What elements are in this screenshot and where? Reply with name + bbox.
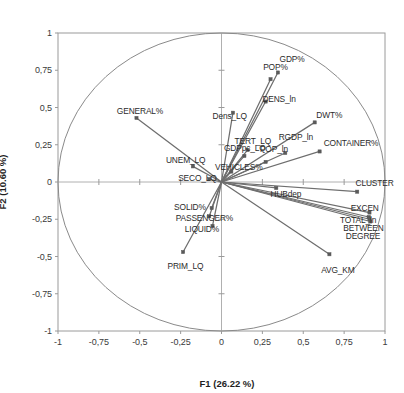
variable-marker [318, 150, 321, 153]
x-tick-label: -0,5 [132, 337, 147, 347]
variable-label-dens-ln: DENS_ln [262, 95, 295, 103]
x-tick-label: 0,25 [254, 337, 271, 347]
y-tick-label: 1 [6, 28, 52, 38]
variable-marker [135, 116, 138, 119]
variable-marker [264, 160, 267, 163]
variable-label-avg-km: AVG_KM [321, 266, 354, 274]
variable-marker [210, 206, 213, 209]
variable-label-dens-lq: Dens_LQ [213, 112, 247, 120]
variable-marker [243, 154, 246, 157]
x-axis-title: F1 (26.22 %) [0, 378, 404, 389]
x-tick-label: -0,75 [89, 337, 109, 347]
variable-label-general: GENERAL% [117, 107, 163, 115]
x-tick-label: 0,5 [297, 337, 309, 347]
variable-marker [191, 165, 194, 168]
variable-label-degree: DEGREE [346, 232, 380, 240]
variable-label-passenger: PASSENGER% [176, 214, 233, 222]
y-tick-label: 0,75 [6, 65, 52, 75]
variable-label-container: CONTAINER% [324, 139, 379, 147]
variable-label-prim-lq: PRIM_LQ [168, 262, 204, 270]
variable-label-vehicles: VEHICLES% [215, 163, 263, 171]
x-tick-label: -1 [54, 337, 62, 347]
variable-label-unem-lq: UNEM_LQ [166, 156, 205, 164]
variable-label-pop: POP% [263, 63, 288, 71]
y-tick-label: -0,25 [6, 214, 52, 224]
variable-label-excen: EXCEN [351, 204, 379, 212]
variable-marker [313, 121, 316, 124]
variable-marker [269, 78, 272, 81]
x-tick-label: 1 [383, 337, 388, 347]
variable-label-seco-lq: SECO_LQ [178, 174, 217, 182]
y-tick-label: 0 [6, 177, 52, 187]
x-tick-label: 0,75 [336, 337, 353, 347]
variable-marker [356, 190, 359, 193]
y-tick-label: 0,5 [6, 103, 52, 113]
y-tick-label: 0,25 [6, 140, 52, 150]
y-tick-label: -1 [6, 326, 52, 336]
x-tick-label: 0 [219, 337, 224, 347]
variable-label-dwt: DWT% [316, 111, 342, 119]
y-axis-title: F2 (10.60 %) [0, 122, 8, 242]
variable-label-pop-ln: POP_ln [260, 145, 288, 153]
variable-label-solid: SOLID% [174, 203, 206, 211]
variable-marker [181, 250, 184, 253]
y-tick-label: -0,75 [6, 289, 52, 299]
y-tick-label: -0,5 [6, 252, 52, 262]
variable-label-rgdp-ln: RGDP_ln [279, 133, 313, 141]
variable-label-cluster: CLUSTER [356, 179, 394, 187]
variable-marker [328, 253, 331, 256]
plot-canvas [0, 0, 404, 393]
variable-label-hubdep: HUBdep [271, 190, 302, 198]
pca-correlation-circle-figure: -1-0,75-0,5-0,2500,250,50,751 10,750,50,… [0, 0, 404, 393]
x-tick-label: -0,25 [171, 337, 191, 347]
variable-label-liquid: LIQUID% [185, 225, 219, 233]
